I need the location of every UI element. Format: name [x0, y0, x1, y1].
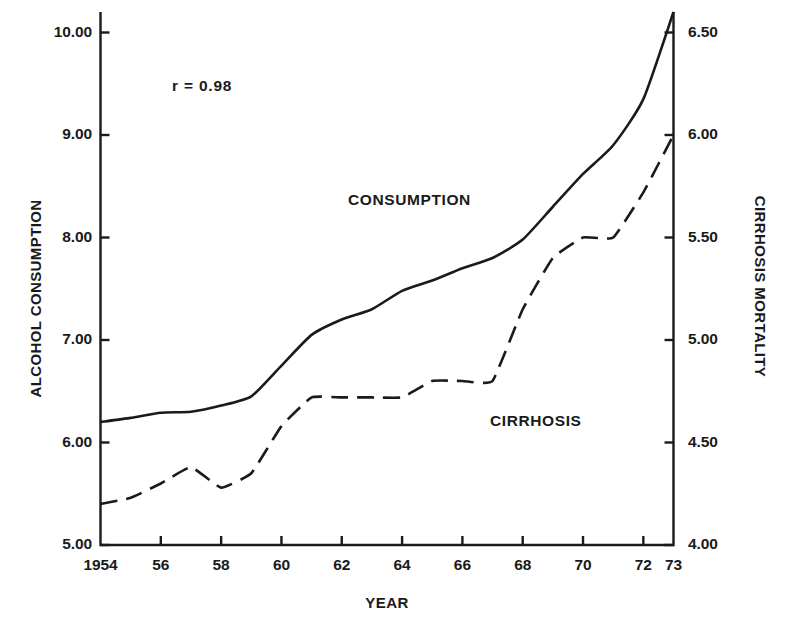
y-tick-left-7.00: 7.00 — [18, 330, 92, 348]
series-label-consumption: CONSUMPTION — [348, 191, 471, 209]
x-tick-56: 56 — [131, 556, 191, 574]
y-tick-right-5.00: 5.00 — [688, 330, 762, 348]
x-tick-62: 62 — [312, 556, 372, 574]
x-tick-70: 70 — [553, 556, 613, 574]
series-line-consumption — [101, 12, 674, 422]
y-tick-right-5.50: 5.50 — [688, 228, 762, 246]
x-tick-60: 60 — [251, 556, 311, 574]
y-tick-left-6.00: 6.00 — [18, 433, 92, 451]
y-tick-right-6.50: 6.50 — [688, 23, 762, 41]
x-tick-64: 64 — [372, 556, 432, 574]
y-tick-left-8.00: 8.00 — [18, 228, 92, 246]
y-tick-right-6.00: 6.00 — [688, 125, 762, 143]
correlation-annotation: r = 0.98 — [172, 77, 232, 95]
x-tick-1954: 1954 — [71, 556, 131, 574]
x-tick-66: 66 — [432, 556, 492, 574]
x-tick-58: 58 — [191, 556, 251, 574]
y-tick-left-5.00: 5.00 — [18, 535, 92, 553]
chart-figure: ALCOHOL CONSUMPTION CIRRHOSIS MORTALITY … — [0, 0, 792, 625]
chart-plot-area — [0, 0, 792, 625]
x-tick-73: 73 — [644, 556, 704, 574]
x-axis-title: YEAR — [327, 594, 447, 611]
y-tick-left-10.00: 10.00 — [18, 23, 92, 41]
y-tick-left-9.00: 9.00 — [18, 125, 92, 143]
x-tick-68: 68 — [493, 556, 553, 574]
y-axis-right-title: CIRRHOSIS MORTALITY — [752, 157, 769, 417]
y-tick-right-4.50: 4.50 — [688, 433, 762, 451]
y-tick-right-4.00: 4.00 — [688, 535, 762, 553]
y-axis-left-title: ALCOHOL CONSUMPTION — [27, 169, 44, 429]
series-label-cirrhosis: CIRRHOSIS — [490, 412, 582, 430]
